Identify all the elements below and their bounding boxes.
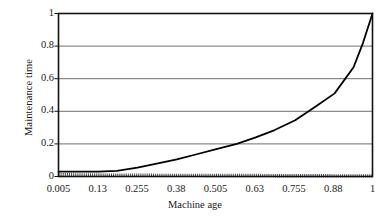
gridlines	[59, 46, 373, 144]
x-tick-label: 0.005	[37, 183, 81, 195]
x-tick-label: 1	[351, 183, 390, 195]
x-tick-label: 0.38	[154, 183, 198, 195]
series-baseline-series	[59, 175, 373, 176]
x-tick-label: 0.88	[311, 183, 355, 195]
data-series-layer	[59, 14, 373, 176]
x-tick-label: 0.505	[194, 183, 238, 195]
series-maintenance-time-curve	[59, 14, 373, 172]
x-axis-title: Machine age	[0, 199, 390, 210]
x-tick-label: 0.255	[115, 183, 159, 195]
x-tick-label: 0.63	[233, 183, 277, 195]
plot-frame	[59, 14, 373, 177]
chart-container: Maintenance time 00.20.40.60.81 0.0050.1…	[0, 0, 390, 222]
x-tick-label: 0.755	[272, 183, 316, 195]
x-tick-label: 0.13	[76, 183, 120, 195]
x-axis-tick-labels: 0.0050.130.2550.380.5050.630.7550.881	[0, 183, 390, 199]
